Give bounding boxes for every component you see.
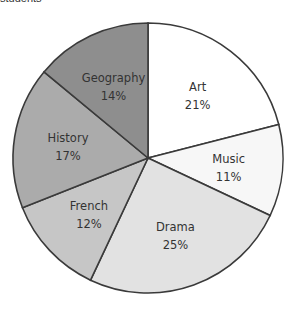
slice-label: Geography <box>82 71 146 85</box>
slice-label: History <box>48 131 89 145</box>
slice-label: French <box>70 199 108 213</box>
slice-label: Art <box>189 80 207 94</box>
slice-percent: 17% <box>55 149 81 163</box>
slice-percent: 25% <box>163 238 189 252</box>
slice-percent: 21% <box>185 98 211 112</box>
pie-chart: Art21%Music11%Drama25%French12%History17… <box>0 0 291 310</box>
slice-percent: 12% <box>76 217 102 231</box>
slice-percent: 11% <box>216 170 242 184</box>
slice-label: Music <box>212 152 245 166</box>
slice-percent: 14% <box>101 89 127 103</box>
slice-label: Drama <box>156 220 195 234</box>
